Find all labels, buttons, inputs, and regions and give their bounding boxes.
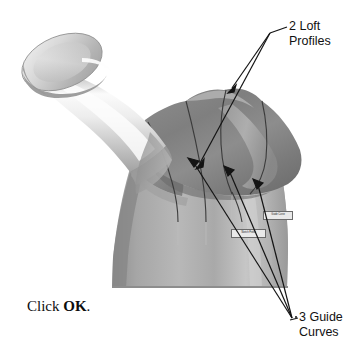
guide-curves-callout-line1: 3 Guide xyxy=(299,310,343,325)
instruction-text: Click OK. xyxy=(27,298,90,315)
loft-profiles-callout-line1: 2 Loft xyxy=(289,19,331,34)
guide-curves-callout-line2: Curves xyxy=(299,325,343,340)
instruction-prefix: Click xyxy=(27,298,63,314)
figure-canvas: Guide Curve Sketch Profile xyxy=(0,0,358,361)
loft-profiles-callout: 2 Loft Profiles xyxy=(289,19,331,49)
loft-profiles-callout-line2: Profiles xyxy=(289,34,331,49)
instruction-suffix: . xyxy=(87,298,91,314)
guide-curve-flag: Guide Curve xyxy=(263,211,293,220)
ok-button-name: OK xyxy=(63,298,86,314)
guide-curves-callout: 3 Guide Curves xyxy=(299,310,343,340)
can-spout-neck xyxy=(46,72,172,194)
profile-flag: Sketch Profile xyxy=(231,229,266,238)
